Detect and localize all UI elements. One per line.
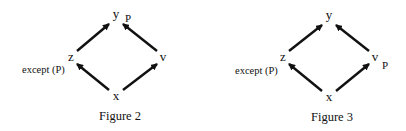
edge-z-to-y [289,25,322,51]
exception-label: except (P) [22,64,65,76]
figure-caption: Figure 2 [99,109,141,123]
edge-x-to-z [77,64,109,90]
diagram-canvas: y z v x P except (P) Figure 2 y z v x P … [0,0,406,131]
edge-z-to-y [77,24,109,51]
node-v: v [372,49,379,64]
node-x: x [113,88,120,103]
node-z: z [280,49,286,64]
edge-x-to-z [289,64,322,91]
property-label: P [382,59,388,71]
edge-x-to-v [123,64,157,90]
edge-x-to-v [336,64,369,91]
node-z: z [68,49,74,64]
figure-2: y z v x P except (P) Figure 2 [22,6,167,123]
edge-v-to-y [123,24,157,51]
figure-3: y z v x P except (P) Figure 3 [235,7,388,124]
node-x: x [326,89,333,104]
property-label: P [125,12,131,24]
node-y: y [113,6,120,21]
exception-label: except (P) [235,65,278,77]
figure-caption: Figure 3 [311,110,353,124]
edge-v-to-y [336,25,369,51]
node-y: y [326,7,333,22]
node-v: v [160,49,167,64]
